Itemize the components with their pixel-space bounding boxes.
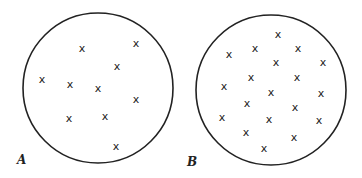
x-marker-icon: x	[273, 56, 280, 69]
x-marker-icon: x	[102, 110, 109, 123]
panel-b: xxxxxxxxxxxxxxxxxxxB	[186, 15, 346, 169]
x-marker-icon: x	[318, 87, 325, 100]
diagram-canvas: xxxxxxxxxxA xxxxxxxxxxxxxxxxxxxB	[0, 0, 362, 178]
x-marker-icon: x	[79, 42, 86, 55]
panel-a: xxxxxxxxxxA	[16, 13, 173, 167]
x-marker-icon: x	[292, 101, 299, 114]
x-marker-icon: x	[226, 48, 233, 61]
x-marker-icon: x	[219, 111, 226, 124]
x-marker-icon: x	[294, 71, 301, 84]
x-marker-icon: x	[291, 131, 298, 144]
x-marker-icon: x	[243, 126, 250, 139]
x-marker-icon: x	[66, 112, 73, 125]
x-marker-icon: x	[275, 28, 282, 41]
x-marker-icon: x	[114, 60, 121, 73]
x-marker-icon: x	[252, 42, 259, 55]
x-marker-icon: x	[113, 140, 120, 153]
x-marker-icon: x	[295, 42, 302, 55]
x-marker-icon: x	[95, 82, 102, 95]
x-marker-icon: x	[133, 37, 140, 50]
x-marker-icon: x	[244, 97, 251, 110]
x-marker-icon: x	[268, 86, 275, 99]
x-marker-icon: x	[133, 93, 140, 106]
x-marker-icon: x	[266, 113, 273, 126]
x-marker-icon: x	[39, 73, 46, 86]
x-marker-icon: x	[320, 56, 327, 69]
x-marker-icon: x	[261, 142, 268, 155]
x-marker-icon: x	[221, 80, 228, 93]
panel-label: A	[16, 153, 26, 167]
panel-label: B	[186, 155, 197, 169]
x-marker-icon: x	[248, 71, 255, 84]
x-marker-icon: x	[316, 114, 323, 127]
x-marker-icon: x	[67, 78, 74, 91]
